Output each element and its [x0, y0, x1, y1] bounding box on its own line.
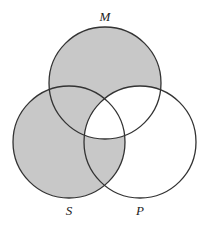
label-m: M [99, 9, 112, 24]
label-s: S [66, 203, 73, 218]
label-p: P [135, 203, 144, 218]
venn-diagram: M S P [0, 0, 206, 227]
